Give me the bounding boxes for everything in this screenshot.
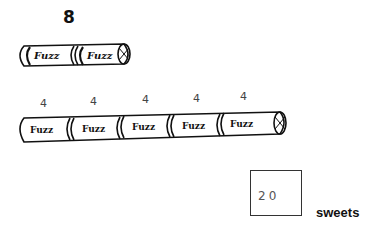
answer-unit: sweets — [316, 205, 359, 220]
top-section-2: Fuzz — [86, 50, 113, 61]
section-label-5: 4 — [240, 90, 247, 103]
answer-value: 20 — [258, 189, 279, 203]
section-label-4: 4 — [193, 92, 200, 105]
svg-text:Fuzz: Fuzz — [30, 125, 53, 135]
sweet-tubes-drawing: Fuzz Fuzz Fuzz Fuzz Fuzz Fuzz Fuzz — [0, 0, 376, 230]
section-label-3: 4 — [142, 93, 149, 106]
svg-text:Fuzz: Fuzz — [132, 122, 155, 132]
svg-text:Fuzz: Fuzz — [82, 124, 105, 134]
svg-text:Fuzz: Fuzz — [182, 121, 205, 131]
svg-text:Fuzz: Fuzz — [230, 119, 253, 129]
section-label-1: 4 — [40, 97, 47, 110]
top-section-1: Fuzz — [33, 50, 60, 61]
section-label-2: 4 — [90, 95, 97, 108]
